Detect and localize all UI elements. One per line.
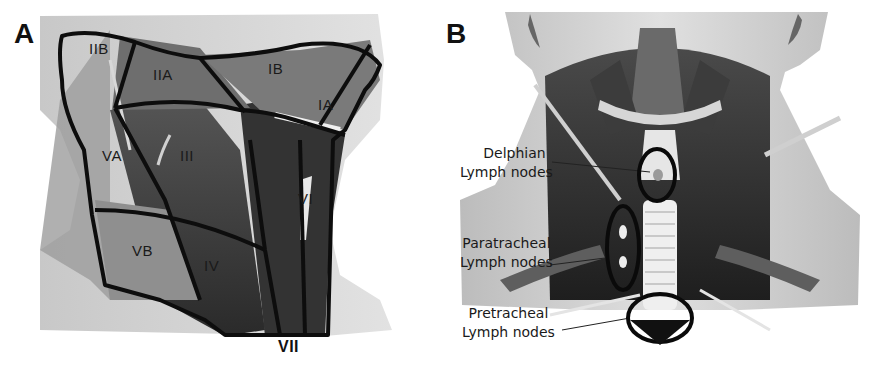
- callout-line-2: Lymph nodes: [460, 163, 553, 182]
- callout-line-1: Delphian: [460, 144, 553, 163]
- lateral-neck-illustration: [0, 0, 440, 366]
- level-vii-label: VII: [278, 338, 299, 356]
- callout-line-2: Lymph nodes: [462, 323, 555, 342]
- level-iv-label: IV: [204, 257, 219, 274]
- panel-a-lateral-neck-levels: A IIB IIA IB IA VA III VI VB IV VII: [0, 0, 440, 366]
- level-iib-label: IIB: [89, 40, 109, 57]
- level-va-label: VA: [102, 147, 122, 164]
- callout-line-2: Lymph nodes: [460, 253, 553, 272]
- level-vi-label: VI: [298, 190, 313, 207]
- panel-b-central-compartment: B Delphian Lymph nodes Paratracheal Lymp…: [440, 0, 881, 366]
- paratracheal-lymph-nodes-label: Paratracheal Lymph nodes: [460, 234, 553, 272]
- callout-line-1: Pretracheal: [462, 304, 555, 323]
- callout-line-1: Paratracheal: [460, 234, 553, 253]
- level-ib-label: IB: [268, 60, 283, 77]
- level-ia-label: IA: [318, 96, 333, 113]
- pretracheal-lymph-nodes-label: Pretracheal Lymph nodes: [462, 304, 555, 342]
- panel-letter-b: B: [446, 18, 466, 50]
- level-vb-label: VB: [132, 242, 153, 259]
- delphian-lymph-nodes-label: Delphian Lymph nodes: [460, 144, 553, 182]
- panel-letter-a: A: [14, 18, 34, 50]
- level-iia-label: IIA: [153, 66, 173, 83]
- level-iii-label: III: [180, 147, 194, 164]
